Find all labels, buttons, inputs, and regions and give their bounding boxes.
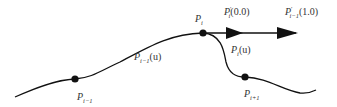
- label-curve-p-i: Pi(u): [231, 45, 251, 55]
- label-arg: (u): [239, 44, 251, 55]
- tangent-arrowhead-p-i-minus-1-icon: [277, 27, 298, 39]
- label-sub: i+1: [250, 94, 259, 101]
- label-sub: i−1: [140, 57, 149, 64]
- label-arg: (0.0): [230, 6, 249, 17]
- label-curve-p-i-minus-1: Pi−1(u): [134, 52, 161, 62]
- point-p-i-minus-1-dot-icon: [71, 75, 78, 82]
- label-sub: i−1: [290, 12, 299, 19]
- point-p-i-plus-1-dot-icon: [241, 73, 248, 80]
- label-sup: ′: [291, 5, 292, 12]
- label-tangent-p-i-0: P′i(0.0): [224, 7, 250, 17]
- curve-segment-p-i-minus-1: [15, 33, 203, 97]
- label-arg: (u): [150, 51, 162, 62]
- label-p-i-minus-1: Pi−1: [77, 92, 93, 102]
- label-sub: i: [201, 19, 203, 26]
- label-arg: (1.0): [299, 6, 318, 17]
- point-p-i-dot-icon: [199, 29, 206, 36]
- label-sub: i−1: [83, 97, 92, 104]
- label-p-i: Pi: [195, 14, 203, 24]
- label-p-i-plus-1: Pi+1: [244, 89, 260, 99]
- curve-segment-p-i: [203, 33, 316, 93]
- label-tangent-p-i-minus-1-1: P′i−1(1.0): [285, 7, 318, 17]
- tangent-arrowhead-p-i-icon: [226, 27, 243, 39]
